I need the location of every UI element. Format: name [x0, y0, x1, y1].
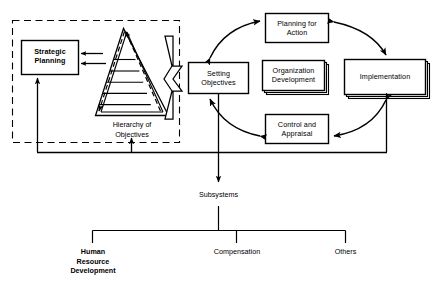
implementation-stack	[345, 60, 430, 99]
cycle-arrow-pfa-impl	[334, 22, 386, 55]
strategic-planning-box	[22, 41, 79, 75]
cycle-arrow-so-pfa	[210, 21, 260, 58]
planning-for-action-box	[266, 14, 329, 43]
subsystems-label: Subsystems	[186, 190, 251, 200]
cycle-arrow-ca-so	[210, 99, 260, 136]
setting-objectives-box	[189, 63, 249, 94]
hierarchy-of-objectives-pyramid	[96, 29, 169, 116]
compensation-label: Compensation	[202, 247, 272, 257]
diagram-vector-layer	[0, 0, 448, 287]
organization-development-stack	[263, 61, 329, 95]
diagram-canvas: Strategic Planning Setting Objectives Pl…	[0, 0, 448, 287]
human-resource-development-label: Human Resource Development	[58, 247, 128, 276]
control-and-appraisal-box	[266, 115, 329, 144]
hierarchy-of-objectives-caption: Hierarchy of Objectives	[96, 120, 168, 139]
others-label: Others	[313, 247, 378, 257]
cycle-arrow-impl-ca	[334, 100, 386, 136]
